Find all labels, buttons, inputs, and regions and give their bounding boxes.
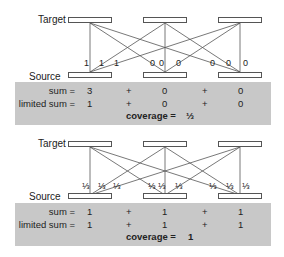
source-label: Source	[29, 71, 61, 82]
limited-sum-value-1: 1	[87, 98, 92, 109]
source-box-2	[143, 193, 187, 199]
limited-sum-label: limited sum =	[15, 219, 75, 230]
sum-value-3: 0	[238, 85, 243, 96]
edge-weight: ⅓	[98, 181, 106, 191]
summary-band: sum = 1 + 1 + 1 limited sum = 1 + 1 + 1 …	[15, 203, 271, 246]
sum-value-1: 3	[87, 85, 92, 96]
source-box-3	[218, 72, 262, 78]
edge-weight: 1	[114, 58, 119, 68]
sum-label: sum =	[15, 85, 75, 96]
coverage-label: coverage =	[126, 110, 176, 121]
sum-value-1: 1	[87, 206, 92, 217]
coverage-value: ⅓	[186, 110, 194, 121]
edge-weight: 0	[150, 58, 155, 68]
diagram-panel-2: Target ⅓ ⅓ ⅓ ⅓ ⅓ ⅓ ⅓ ⅓ ⅓ Source sum = 1 …	[0, 125, 284, 257]
edge-weight: 0	[159, 58, 164, 68]
edge-weight: ⅓	[148, 181, 156, 191]
source-label: Source	[29, 191, 61, 202]
edge-weight: 0	[243, 58, 248, 68]
edge-weight: 0	[176, 58, 181, 68]
limited-sum-value-1: 1	[87, 219, 92, 230]
source-box-3	[218, 193, 262, 199]
source-box-1	[68, 72, 112, 78]
plus-sign: +	[126, 206, 132, 217]
edge-weight: ⅓	[82, 181, 90, 191]
edge-weight: 0	[226, 58, 231, 68]
limited-sum-value-3: 0	[238, 98, 243, 109]
edge-weight: ⅓	[226, 181, 234, 191]
edge-weight: ⅓	[242, 181, 250, 191]
edge-weight: ⅓	[175, 181, 183, 191]
coverage-label: coverage =	[126, 231, 176, 242]
sum-label: sum =	[15, 206, 75, 217]
plus-sign: +	[126, 98, 132, 109]
limited-sum-label: limited sum =	[15, 98, 75, 109]
sum-value-3: 1	[238, 206, 243, 217]
plus-sign: +	[202, 219, 208, 230]
edge-weight: 1	[84, 58, 89, 68]
plus-sign: +	[202, 85, 208, 96]
limited-sum-value-2: 0	[162, 98, 167, 109]
edge-weight: 1	[99, 58, 104, 68]
plus-sign: +	[126, 219, 132, 230]
limited-sum-value-3: 1	[238, 219, 243, 230]
source-box-1	[68, 193, 112, 199]
plus-sign: +	[202, 206, 208, 217]
limited-sum-value-2: 1	[162, 219, 167, 230]
sum-value-2: 1	[162, 206, 167, 217]
source-box-2	[143, 72, 187, 78]
coverage-value: 1	[188, 231, 193, 242]
edge-weight: ⅓	[158, 181, 166, 191]
edge-weight: ⅓	[113, 181, 121, 191]
sum-value-2: 0	[162, 85, 167, 96]
edge-weight: 0	[210, 58, 215, 68]
summary-band: sum = 3 + 0 + 0 limited sum = 1 + 0 + 0 …	[15, 82, 271, 125]
diagram-panel-1: Target 1 1 1 0 0 0 0 0 0 Source sum = 3 …	[0, 0, 284, 125]
edge-weight: ⅓	[209, 181, 217, 191]
plus-sign: +	[202, 98, 208, 109]
plus-sign: +	[126, 85, 132, 96]
